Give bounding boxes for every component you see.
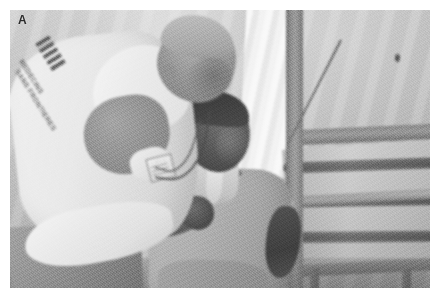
panel-label: A bbox=[18, 14, 27, 26]
patient-face-highlight bbox=[216, 126, 250, 166]
clinician-ear bbox=[162, 64, 176, 83]
rod-tip bbox=[395, 54, 400, 62]
figure-panel: MEDECINS SANS FRONTIERES A bbox=[0, 0, 439, 299]
photograph: MEDECINS SANS FRONTIERES bbox=[10, 10, 430, 288]
